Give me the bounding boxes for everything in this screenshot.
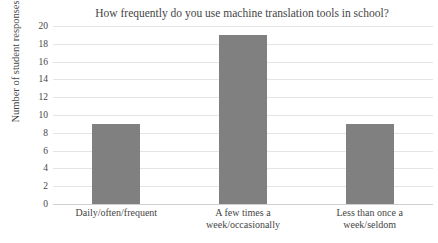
y-tick-label: 4 [43, 163, 48, 173]
bar[interactable] [92, 124, 140, 204]
gridline [53, 204, 433, 205]
chart-title: How frequently do you use machine transl… [52, 6, 432, 20]
x-tick-label: A few times aweek/occasionally [180, 207, 307, 231]
x-tick-label-line: A few times a [180, 207, 307, 219]
y-axis-title: Number of student responses [10, 0, 21, 137]
x-tick-label-line: week/occasionally [180, 219, 307, 231]
bar[interactable] [346, 124, 394, 204]
x-axis-labels: Daily/often/frequentA few times aweek/oc… [53, 207, 433, 241]
y-tick-label: 20 [39, 21, 49, 31]
y-tick-label: 14 [39, 74, 49, 84]
bars-group [53, 26, 433, 204]
x-tick-label-line: week/seldom [306, 219, 433, 231]
y-tick-label: 6 [43, 146, 48, 156]
y-tick-label: 12 [39, 92, 49, 102]
y-tick-label: 18 [39, 39, 49, 49]
y-tick-label: 16 [39, 57, 49, 67]
x-tick-label-line: Daily/often/frequent [53, 207, 180, 219]
x-tick-label-line: Less than once a [306, 207, 433, 219]
bar-chart-figure: How frequently do you use machine transl… [0, 0, 438, 243]
x-tick-label: Daily/often/frequent [53, 207, 180, 219]
y-tick-label: 0 [43, 199, 48, 209]
y-tick-label: 8 [43, 128, 48, 138]
x-tick-label: Less than once aweek/seldom [306, 207, 433, 231]
plot-area: 02468101214161820 [53, 26, 433, 204]
y-tick-label: 10 [39, 110, 49, 120]
bar[interactable] [219, 35, 267, 204]
y-tick-label: 2 [43, 181, 48, 191]
